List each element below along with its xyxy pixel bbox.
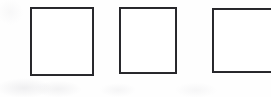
checkbox-2[interactable] [119, 7, 177, 74]
checkbox-1[interactable] [30, 7, 94, 76]
scanned-page [0, 0, 271, 97]
checkbox-3[interactable] [212, 8, 271, 73]
checkbox-row [0, 0, 271, 97]
